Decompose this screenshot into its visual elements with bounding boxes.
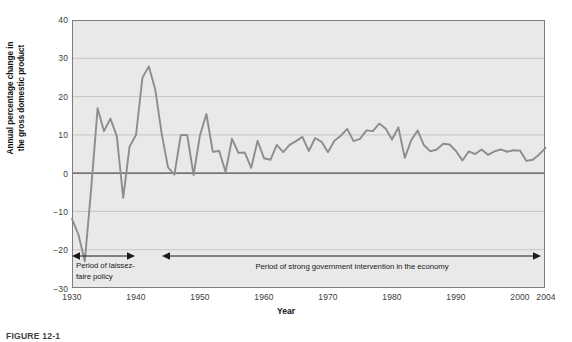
y-tick-neg10: −10 <box>42 208 68 217</box>
y-tick-10: 10 <box>42 131 68 140</box>
y-axis-title-line2: the gross domestic product <box>17 45 26 152</box>
x-tick-1960: 1960 <box>244 292 284 302</box>
x-tick-1930: 1930 <box>52 292 92 302</box>
x-tick-2004: 2004 <box>526 292 566 302</box>
x-tick-1940: 1940 <box>116 292 156 302</box>
strong-government-annotation-label: Period of strong government intervention… <box>166 262 538 273</box>
y-tick-0: 0 <box>42 170 68 179</box>
laissez-faire-annotation-label: Period of laissez- faire policy <box>76 261 146 282</box>
figure-container: 40 30 20 10 0 −10 −20 −30 Annual percent… <box>0 0 572 342</box>
x-tick-1970: 1970 <box>308 292 348 302</box>
y-tick-neg20: −20 <box>42 246 68 255</box>
x-tick-1950: 1950 <box>180 292 220 302</box>
x-tick-1990: 1990 <box>436 292 476 302</box>
y-axis-title-line1: Annual percentage change in <box>6 42 15 155</box>
y-axis-tick-group: 40 30 20 10 0 −10 −20 −30 <box>38 0 68 342</box>
plot-area <box>72 20 545 288</box>
laissez-faire-line2: faire policy <box>76 272 113 281</box>
x-tick-1980: 1980 <box>372 292 412 302</box>
y-tick-40: 40 <box>42 16 68 25</box>
y-axis-title: Annual percentage change in the gross do… <box>6 7 30 189</box>
y-tick-20: 20 <box>42 93 68 102</box>
laissez-faire-line1: Period of laissez- <box>76 261 135 270</box>
x-axis-title: Year <box>0 306 572 316</box>
y-tick-30: 30 <box>42 54 68 63</box>
figure-caption: FIGURE 12-1 <box>6 331 60 341</box>
